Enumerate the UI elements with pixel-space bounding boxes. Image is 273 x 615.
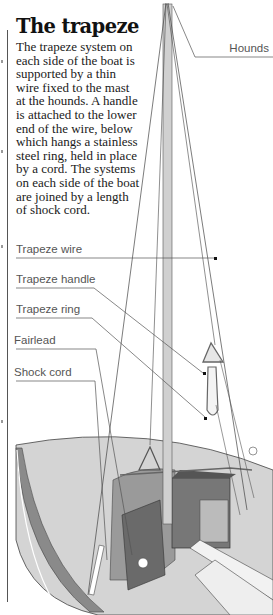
shroud-right <box>168 3 247 510</box>
label-shock-cord: Shock cord <box>14 366 72 379</box>
label-hounds: Hounds <box>229 42 269 55</box>
mast <box>163 4 172 524</box>
trapeze-handle <box>203 343 223 362</box>
article-body: The trapeze system on each side of the b… <box>16 40 140 217</box>
label-trapeze-ring: Trapeze ring <box>16 303 80 316</box>
leader-trapeze-handle <box>16 288 203 373</box>
article-title: The trapeze <box>16 16 139 38</box>
label-fairlead: Fairlead <box>14 334 56 347</box>
trapeze-wire-right <box>167 4 215 345</box>
label-trapeze-wire: Trapeze wire <box>16 243 82 256</box>
label-trapeze-handle: Trapeze handle <box>16 273 96 286</box>
